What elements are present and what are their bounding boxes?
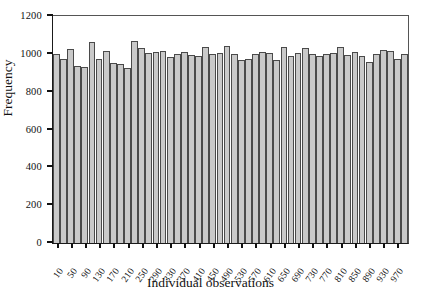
y-axis-tick-label: 800 [26,86,42,97]
y-axis-title: Frequency [0,28,16,148]
y-axis-tick-label: 0 [37,237,42,248]
bar [373,54,380,243]
x-axis-tick [270,243,272,248]
y-axis-tick: 400 [47,165,53,167]
bar [295,53,302,243]
y-axis-tick-label: 600 [26,124,42,135]
x-axis-tick [71,243,73,248]
x-axis-tick [341,243,343,248]
plot-area: 020040060080010001200 105090130170210250… [52,15,409,244]
bar [224,46,231,243]
bar [337,47,344,243]
bar [53,54,60,243]
bar [330,53,337,243]
bar [124,68,131,243]
x-axis-tick [199,243,201,248]
bar [316,56,323,243]
x-axis-tick [57,243,59,248]
y-axis-tick: 600 [47,128,53,130]
x-axis-tick [369,243,371,248]
bar [387,51,394,243]
y-axis-tick-label: 400 [26,162,42,173]
x-axis-tick [355,243,357,248]
bar [117,64,124,243]
bar [401,54,408,243]
y-axis-tick-label: 200 [26,199,42,210]
x-axis-tick [142,243,144,248]
bar [110,63,117,243]
bar [74,66,81,243]
bar [174,54,181,243]
bar [96,59,103,243]
bar [380,50,387,243]
bar [266,53,273,243]
bar-series [53,16,408,243]
x-axis-tick [255,243,257,248]
y-axis-tick: 200 [47,203,53,205]
y-axis-tick-label: 1000 [20,48,42,59]
bar [309,54,316,243]
bar [89,42,96,243]
bar [160,51,167,243]
bar [167,57,174,243]
x-axis-tick [227,243,229,248]
y-axis-tick: 1200 [47,14,53,16]
bar [238,60,245,243]
bar [60,59,67,243]
bar [67,49,74,243]
y-axis-tick: 800 [47,90,53,92]
y-axis-tick: 0 [47,241,53,243]
x-axis-tick [397,243,399,248]
x-axis-tick [184,243,186,248]
x-axis-tick [284,243,286,248]
bar [352,52,359,243]
histogram-figure: 020040060080010001200 105090130170210250… [0,0,421,298]
bar [131,41,138,243]
x-axis-tick [241,243,243,248]
bar [145,53,152,243]
bar [245,59,252,243]
bar [288,56,295,243]
bar [103,51,110,243]
x-axis-title: Individual observations [0,275,421,291]
bar [181,52,188,243]
bar [394,59,401,243]
bar [252,54,259,243]
x-axis-tick [113,243,115,248]
bar [231,54,238,243]
y-axis-tick-label: 1200 [20,10,42,21]
bar [153,52,160,243]
bar [259,52,266,243]
bar [217,53,224,243]
bar [344,55,351,243]
bar [302,48,309,243]
bar [81,67,88,243]
x-axis-tick [383,243,385,248]
x-axis-tick [298,243,300,248]
x-axis-tick [312,243,314,248]
y-axis-tick: 1000 [47,52,53,54]
bar [209,54,216,243]
x-axis-tick [99,243,101,248]
x-axis-tick [156,243,158,248]
x-axis-tick [85,243,87,248]
bar [202,47,209,243]
bar [195,56,202,243]
x-axis-tick [128,243,130,248]
x-axis-tick [170,243,172,248]
bar [366,62,373,243]
bar [188,55,195,243]
x-axis-tick [326,243,328,248]
bar [138,48,145,243]
bar [323,54,330,243]
x-axis-tick [213,243,215,248]
bar [359,56,366,243]
bar [281,47,288,243]
bar [273,60,280,243]
